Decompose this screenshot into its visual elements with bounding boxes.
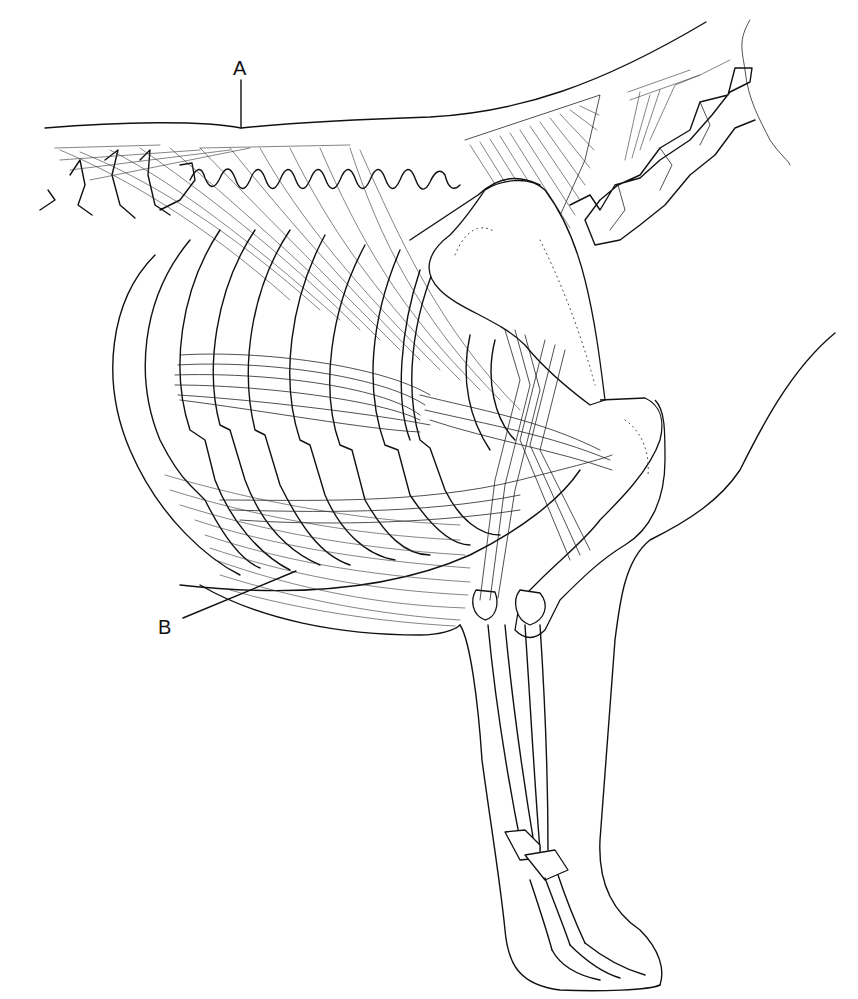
cervical-vertebrae bbox=[570, 68, 755, 245]
label-b-leader bbox=[183, 571, 296, 618]
label-a: A bbox=[233, 58, 246, 78]
dorsal-outline bbox=[45, 22, 706, 128]
scapula bbox=[410, 178, 605, 405]
chest-forelimb-outline bbox=[600, 333, 835, 985]
thoracic-vertebrae bbox=[40, 150, 460, 218]
label-b: B bbox=[158, 617, 171, 637]
anatomical-figure: A B bbox=[0, 0, 858, 999]
forelimb-caudal-outline bbox=[460, 625, 660, 991]
muscle-b-fibers bbox=[165, 475, 470, 626]
thorax-drawing bbox=[0, 0, 858, 999]
neck-outline bbox=[742, 20, 790, 165]
manus bbox=[505, 830, 645, 980]
